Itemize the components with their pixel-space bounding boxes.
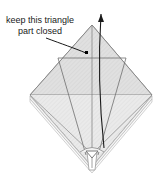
annotation-pointer-dot: [85, 51, 88, 54]
annotation-label-line2: part closed: [0, 26, 80, 37]
annotation-label-line1: keep this triangle: [6, 15, 74, 25]
annotation-label: keep this triangle part closed: [0, 15, 80, 37]
origami-diagram-figure: keep this triangle part closed: [0, 0, 167, 175]
